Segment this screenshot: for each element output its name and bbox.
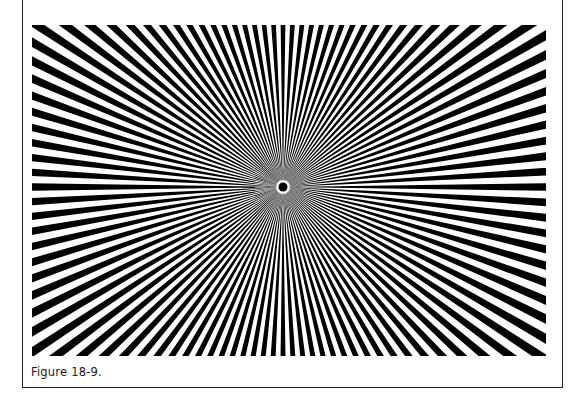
starburst-pattern xyxy=(32,25,546,356)
radial-spokes-graphic xyxy=(32,25,546,356)
center-dot xyxy=(279,183,288,192)
figure-caption: Figure 18-9. xyxy=(31,365,102,379)
